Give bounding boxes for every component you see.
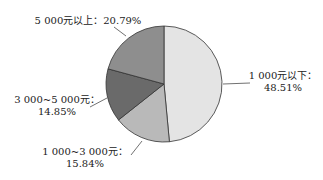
leader-line: [223, 83, 250, 84]
slice-label: 3 000~5 000元：: [14, 94, 100, 105]
pie-slice: [164, 26, 222, 142]
slice-value-label: 14.85%: [38, 106, 76, 117]
slice-label: 5 000元以上：20.79%: [35, 15, 142, 26]
leader-line: [131, 141, 142, 155]
leader-line: [114, 27, 126, 36]
slice-label: 1 000~3 000元：: [42, 146, 128, 157]
slice-label: 1 000元以下：: [249, 70, 318, 81]
pie-chart: 1 000元以下：48.51%1 000~3 000元：15.84%3 000~…: [0, 0, 323, 180]
slice-value-label: 48.51%: [264, 82, 302, 93]
slice-value-label: 15.84%: [66, 158, 104, 169]
